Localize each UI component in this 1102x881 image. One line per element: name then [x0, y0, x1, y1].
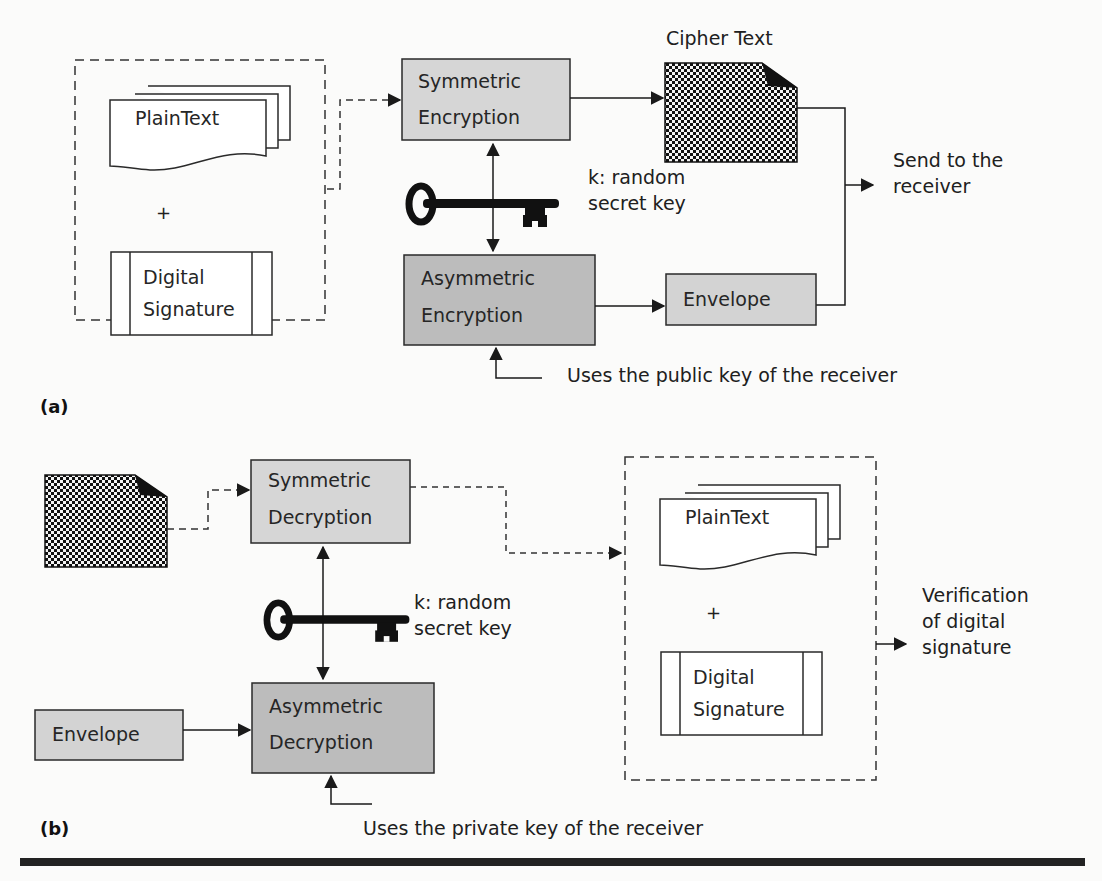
plus-sign-a: +: [156, 200, 171, 226]
asymmetric-encryption-label-1: Asymmetric: [421, 263, 535, 294]
dashed-connector: [327, 100, 400, 189]
verify-label-1: Verification: [922, 582, 1029, 608]
symmetric-encryption-label-2: Encryption: [418, 102, 520, 133]
plus-sign-b: +: [706, 600, 721, 626]
asymmetric-decryption-label-1: Asymmetric: [269, 691, 383, 722]
key-icon-b: [267, 603, 410, 642]
envelope-label-a: Envelope: [683, 284, 771, 315]
envelope-label-b: Envelope: [52, 719, 140, 750]
plaintext-label-b: PlainText: [685, 502, 769, 533]
symmetric-decryption-label-1: Symmetric: [268, 465, 371, 496]
ciphertext-doc-icon-b: [45, 475, 167, 567]
plaintext-label-a: PlainText: [135, 103, 219, 134]
signature-label-a2: Signature: [143, 294, 235, 325]
signature-label-b1: Digital: [693, 662, 755, 693]
signature-label-b2: Signature: [693, 694, 785, 725]
key-label-a1: k: random: [588, 164, 685, 190]
key-label-b1: k: random: [414, 589, 511, 615]
ciphertext-label: Cipher Text: [666, 25, 773, 51]
verify-label-3: signature: [922, 634, 1012, 660]
dashed-connector-b1: [167, 490, 249, 529]
key-icon: [409, 186, 559, 227]
dashed-connector-b2: [410, 487, 621, 553]
private-key-note: Uses the private key of the receiver: [363, 815, 703, 841]
key-label-a2: secret key: [588, 190, 686, 216]
symmetric-decryption-label-2: Decryption: [268, 502, 372, 533]
send-label-2: receiver: [893, 173, 970, 199]
public-key-note: Uses the public key of the receiver: [567, 362, 897, 388]
key-label-b2: secret key: [414, 615, 512, 641]
symmetric-encryption-label-1: Symmetric: [418, 66, 521, 97]
panel-b-label: (b): [40, 818, 69, 839]
verify-label-2: of digital: [922, 608, 1005, 634]
asymmetric-decryption-label-2: Decryption: [269, 727, 373, 758]
asymmetric-encryption-label-2: Encryption: [421, 300, 523, 331]
ciphertext-doc-icon: [665, 63, 797, 162]
send-label-1: Send to the: [893, 147, 1003, 173]
signature-label-a1: Digital: [143, 262, 205, 293]
bottom-rule: [20, 858, 1085, 866]
panel-a-label: (a): [40, 396, 69, 417]
private-key-arrow: [331, 776, 372, 804]
public-key-arrow: [496, 348, 542, 378]
